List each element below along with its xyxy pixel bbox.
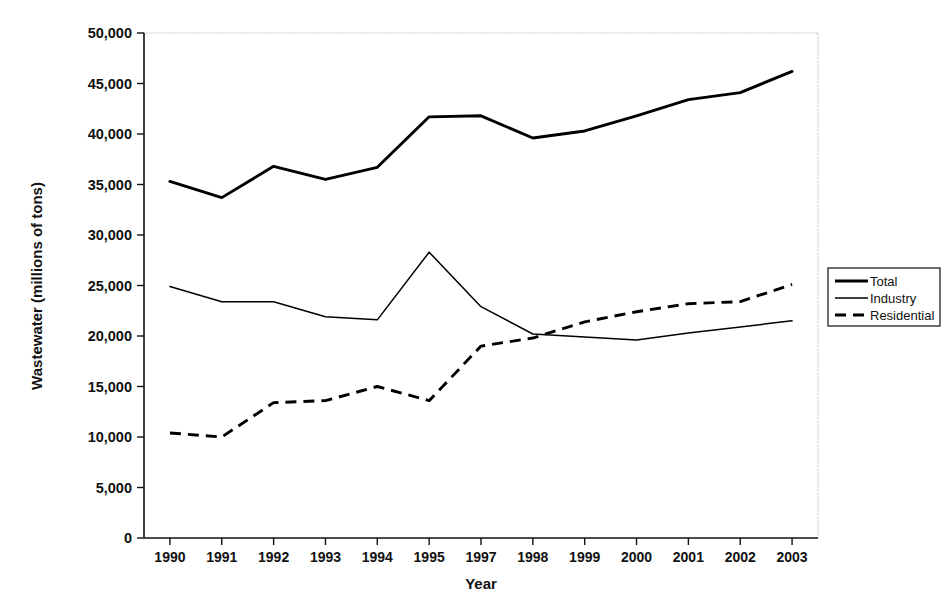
y-tick-label: 0 [124,530,132,546]
y-tick-label: 45,000 [88,76,132,92]
series-line-total [170,71,792,197]
x-tick-label: 1991 [206,549,237,565]
legend-label-residential: Residential [870,308,934,323]
x-axis-ticks [170,538,792,545]
y-tick-label: 20,000 [88,328,132,344]
x-tick-label: 1994 [362,549,393,565]
x-axis-tick-labels: 1990199119921993199419951997199819992000… [154,549,808,565]
x-tick-label: 2003 [776,549,807,565]
chart-container: 05,00010,00015,00020,00025,00030,00035,0… [0,0,946,616]
chart-legend: Total Industry Residential [828,268,940,326]
x-tick-label: 1998 [517,549,548,565]
x-tick-label: 2000 [621,549,652,565]
y-tick-label: 25,000 [88,278,132,294]
y-tick-label: 10,000 [88,429,132,445]
y-axis-title: Wastewater (millions of tons) [28,182,45,390]
y-tick-label: 50,000 [88,25,132,41]
y-tick-label: 5,000 [96,480,132,496]
x-tick-label: 1997 [465,549,496,565]
series-line-industry [170,252,792,340]
x-axis-title: Year [465,575,497,592]
x-tick-label: 1999 [569,549,600,565]
x-tick-label: 2002 [725,549,756,565]
legend-label-industry: Industry [870,291,917,306]
y-tick-label: 30,000 [88,227,132,243]
y-tick-label: 35,000 [88,177,132,193]
y-tick-label: 40,000 [88,126,132,142]
line-chart: 05,00010,00015,00020,00025,00030,00035,0… [0,0,946,616]
x-tick-label: 2001 [673,549,704,565]
y-axis-tick-labels: 05,00010,00015,00020,00025,00030,00035,0… [88,25,132,546]
x-tick-label: 1992 [258,549,289,565]
y-axis-ticks [137,33,144,538]
y-tick-label: 15,000 [88,379,132,395]
x-tick-label: 1990 [154,549,185,565]
legend-label-total: Total [870,274,898,289]
x-tick-label: 1995 [414,549,445,565]
x-tick-label: 1993 [310,549,341,565]
